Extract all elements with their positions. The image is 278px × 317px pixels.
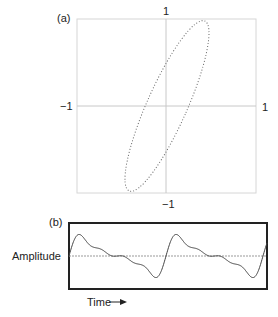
panel-a-tick-top: 1 <box>163 5 169 17</box>
panel-a-tick-bottom: −1 <box>162 198 175 210</box>
amplitude-axis-label: Amplitude <box>12 250 61 262</box>
arrow-right-icon <box>109 299 127 305</box>
panel-a-tick-right: 1 <box>262 101 268 113</box>
figure-graphics <box>0 0 278 317</box>
time-axis-label: Time <box>87 296 111 308</box>
panel-a-label: (a) <box>57 12 70 24</box>
panel-b-label: (b) <box>49 216 62 228</box>
panel-a-tick-left: −1 <box>60 100 73 112</box>
